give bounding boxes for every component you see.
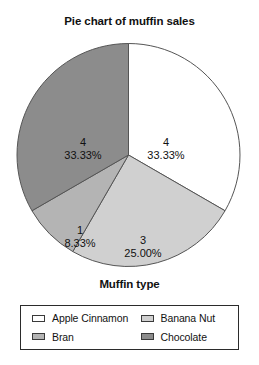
legend-label-apple-cinnamon: Apple Cinnamon (52, 312, 128, 324)
chart-title: Pie chart of muffin sales (0, 15, 259, 27)
legend-item-banana-nut[interactable]: Banana Nut (130, 312, 239, 324)
legend-label-chocolate: Chocolate (161, 331, 207, 343)
slice-value-bran: 1 (77, 224, 83, 236)
slice-value-banana-nut: 3 (140, 234, 146, 246)
legend-swatch-apple-cinnamon (32, 315, 45, 322)
legend-item-chocolate[interactable]: Chocolate (130, 331, 239, 343)
slice-percent-banana-nut: 25.00% (124, 247, 162, 259)
legend-label-banana-nut: Banana Nut (161, 312, 215, 324)
slice-value-chocolate: 4 (80, 136, 86, 148)
slice-percent-chocolate: 33.33% (64, 149, 102, 161)
pie-svg: 4 33.33% 3 25.00% 1 8.33% 4 33.33% (0, 36, 259, 276)
legend-label-bran: Bran (52, 331, 74, 343)
slice-percent-apple-cinnamon: 33.33% (147, 149, 185, 161)
axis-label-muffin-type: Muffin type (0, 278, 259, 290)
legend-item-apple-cinnamon[interactable]: Apple Cinnamon (21, 312, 130, 324)
pie-slices (17, 44, 240, 267)
legend-swatch-bran (32, 333, 45, 340)
pie-chart-figure: Pie chart of muffin sales 4 33.33% 3 25.… (0, 0, 259, 365)
legend-grid: Apple Cinnamon Banana Nut Bran Chocolate (21, 306, 238, 349)
slice-percent-bran: 8.33% (64, 237, 95, 249)
pie-plot-area: 4 33.33% 3 25.00% 1 8.33% 4 33.33% (0, 36, 259, 276)
legend: Apple Cinnamon Banana Nut Bran Chocolate (20, 305, 239, 350)
legend-swatch-chocolate (141, 333, 154, 340)
legend-swatch-banana-nut (141, 315, 154, 322)
legend-item-bran[interactable]: Bran (21, 331, 130, 343)
slice-value-apple-cinnamon: 4 (163, 136, 169, 148)
